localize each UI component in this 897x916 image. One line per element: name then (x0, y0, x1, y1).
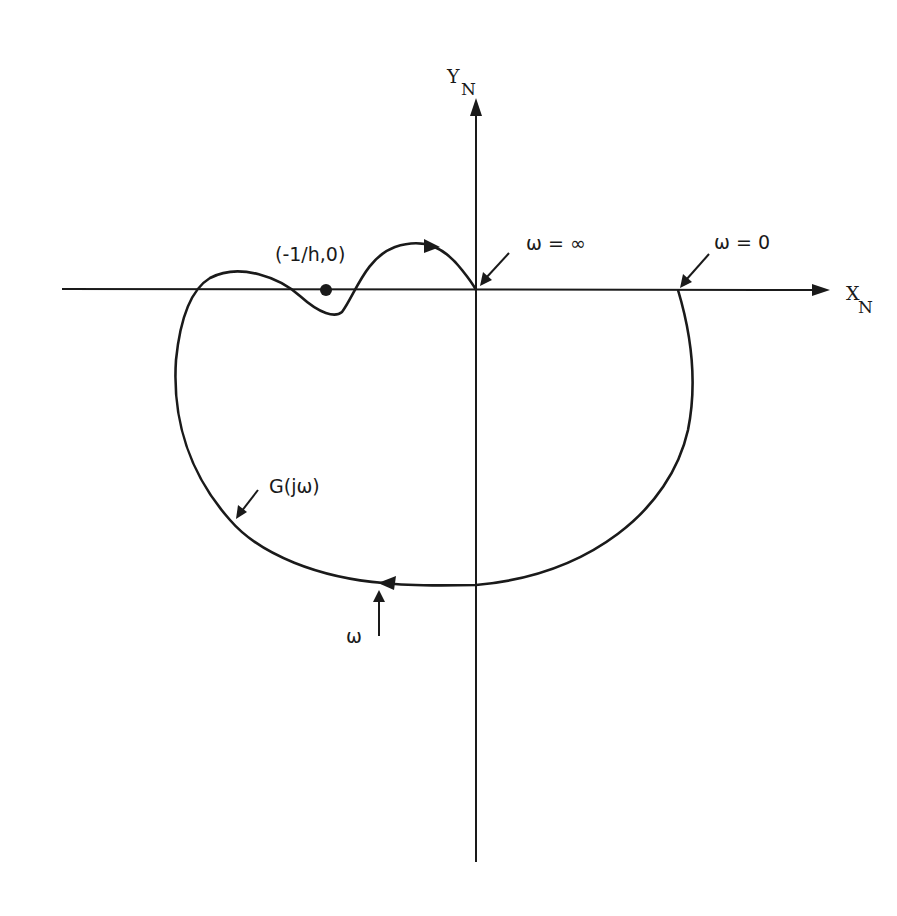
curve-direction-arrow-icon (424, 239, 440, 253)
curve-label: G(jω) (269, 475, 320, 497)
y-axis-subscript: N (461, 79, 476, 99)
omega-zero-pointer (686, 254, 709, 280)
omega-direction-arrow-icon (373, 590, 385, 602)
nyquist-diagram: Y N X N (-1/h,0) ω = ∞ ω = 0 G(jω) ω (0, 0, 897, 916)
y-axis-label: Y (446, 65, 460, 87)
y-axis (470, 98, 482, 862)
y-axis-arrow-icon (470, 98, 482, 116)
omega-infinity-pointer (486, 253, 509, 278)
omega-direction-label: ω (346, 625, 362, 647)
critical-point-dot (320, 284, 332, 296)
x-axis-arrow-icon (812, 284, 830, 296)
critical-point-label: (-1/h,0) (275, 243, 345, 265)
curve-direction-arrow-icon (378, 576, 396, 590)
x-axis-subscript: N (858, 297, 873, 317)
omega-zero-label: ω = 0 (714, 231, 770, 253)
omega-infinity-label: ω = ∞ (526, 232, 586, 254)
curve-label-pointer (241, 490, 258, 512)
x-axis (62, 284, 830, 296)
nyquist-curve (175, 243, 692, 585)
